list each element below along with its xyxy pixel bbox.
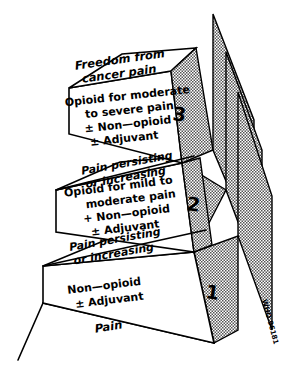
ladder-diagram: Freedom from cancer pain Opioid for mode… — [0, 0, 288, 367]
ground-line-left — [18, 303, 43, 360]
base-label: Pain — [94, 317, 123, 335]
who-credit-text: WHO 96181 — [260, 298, 280, 345]
who-analgesic-ladder-figure: Freedom from cancer pain Opioid for mode… — [0, 0, 288, 367]
base-label-text: Pain — [94, 317, 123, 335]
backdrop-peak-near — [238, 92, 272, 330]
